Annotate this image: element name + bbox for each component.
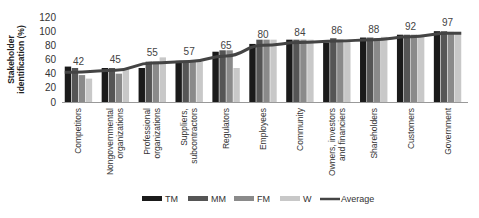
- bar-tm: [434, 31, 440, 102]
- bar-tm: [175, 61, 181, 102]
- bar-mm: [146, 62, 152, 102]
- data-label: 97: [442, 17, 454, 28]
- y-tick-label: 0: [50, 97, 56, 108]
- category-label-line: Professional: [142, 108, 152, 155]
- data-label: 86: [331, 25, 343, 36]
- bar-w: [196, 62, 202, 102]
- bar-fm: [226, 50, 232, 102]
- legend-swatch-fm: [234, 196, 254, 201]
- bar-mm: [330, 38, 336, 102]
- category-label-line: organizations: [152, 108, 162, 159]
- category-label-line: Customers: [406, 108, 416, 149]
- bar-tm: [323, 43, 329, 103]
- legend: TMMMFMWAverage: [142, 194, 374, 204]
- data-label: 92: [405, 21, 417, 32]
- bar-tm: [360, 38, 366, 102]
- data-labels: 4245555765808486889297: [73, 17, 454, 67]
- legend-swatch-mm: [188, 196, 208, 201]
- category-label-line: Employees: [258, 108, 268, 150]
- bar-fm: [153, 62, 159, 102]
- category-label-line: Community: [295, 107, 305, 151]
- data-label: 88: [368, 24, 380, 35]
- bar-tm: [212, 52, 218, 102]
- category-label: Competitors: [73, 108, 83, 154]
- data-label: 45: [110, 54, 122, 65]
- y-tick-label: 60: [45, 54, 57, 65]
- bar-mm: [256, 40, 262, 102]
- category-label: Shareholders: [369, 108, 379, 159]
- bar-tm: [286, 40, 292, 102]
- bar-fm: [189, 61, 195, 102]
- category-label-line: subcontractors: [189, 108, 199, 164]
- category-label-line: Competitors: [73, 108, 83, 154]
- bar-fm: [263, 40, 269, 102]
- category-label: Customers: [406, 108, 416, 149]
- category-label-line: Regulators: [221, 108, 231, 149]
- bar-tm: [249, 44, 255, 102]
- bars: [65, 31, 461, 102]
- bar-mm: [109, 68, 115, 102]
- legend-label: MM: [211, 194, 226, 204]
- bar-fm: [79, 75, 85, 102]
- data-label: 84: [294, 27, 306, 38]
- bar-mm: [404, 35, 410, 102]
- bar-mm: [293, 40, 299, 102]
- bar-w: [270, 40, 276, 102]
- bar-w: [123, 68, 129, 102]
- y-axis-label-line: identification (%): [16, 25, 26, 94]
- legend-swatch-tm: [142, 196, 162, 201]
- legend-label: Average: [341, 194, 374, 204]
- category-label-line: Owners, investors: [327, 108, 337, 176]
- bar-fm: [411, 35, 417, 102]
- category-label: Owners, investorsand financiers: [327, 108, 347, 176]
- x-axis-categories: CompetitorsNongovernmentalorganizationsP…: [73, 107, 452, 176]
- bar-mm: [441, 31, 447, 102]
- bar-w: [233, 68, 239, 102]
- y-tick-label: 20: [45, 82, 57, 93]
- legend-swatch-w: [280, 196, 300, 201]
- bar-fm: [448, 32, 454, 102]
- bar-w: [381, 37, 387, 102]
- chart: 020406080100120 Stakeholderidentificatio…: [0, 0, 479, 218]
- category-label: Nongovernmentalorganizations: [105, 108, 125, 175]
- y-axis-label: Stakeholderidentification (%): [6, 25, 26, 94]
- y-axis-label-line: Stakeholder: [6, 34, 16, 83]
- category-label-line: Suppliers,: [179, 108, 189, 146]
- bar-tm: [139, 68, 145, 102]
- y-tick-label: 120: [39, 12, 56, 23]
- category-label: Employees: [258, 108, 268, 150]
- data-label: 55: [147, 47, 159, 58]
- bar-mm: [367, 38, 373, 102]
- legend-label: W: [303, 194, 312, 204]
- legend-label: FM: [257, 194, 270, 204]
- bar-mm: [182, 61, 188, 102]
- category-label: Suppliers,subcontractors: [179, 108, 199, 164]
- y-tick-label: 40: [45, 68, 57, 79]
- bar-w: [86, 79, 92, 102]
- category-label-line: Shareholders: [369, 108, 379, 159]
- bar-fm: [300, 40, 306, 102]
- category-label-line: organizations: [115, 108, 125, 159]
- category-label-line: and financiers: [337, 108, 347, 161]
- bar-fm: [374, 38, 380, 102]
- bar-w: [344, 40, 350, 102]
- category-label-line: Government: [443, 107, 453, 154]
- legend-label: TM: [165, 194, 178, 204]
- y-tick-label: 100: [39, 26, 56, 37]
- bar-w: [455, 32, 461, 102]
- bar-fm: [116, 74, 122, 102]
- category-label-line: Nongovernmental: [105, 108, 115, 175]
- category-label: Professionalorganizations: [142, 108, 162, 159]
- bar-mm: [219, 50, 225, 102]
- bar-fm: [337, 40, 343, 102]
- data-label: 80: [257, 29, 269, 40]
- bar-w: [307, 40, 313, 102]
- data-label: 65: [221, 40, 233, 51]
- data-label: 42: [73, 56, 85, 67]
- data-label: 57: [184, 46, 196, 57]
- category-label: Regulators: [221, 108, 231, 149]
- category-label: Community: [295, 107, 305, 151]
- bar-tm: [397, 35, 403, 102]
- y-tick-label: 80: [45, 40, 57, 51]
- bar-tm: [102, 68, 108, 102]
